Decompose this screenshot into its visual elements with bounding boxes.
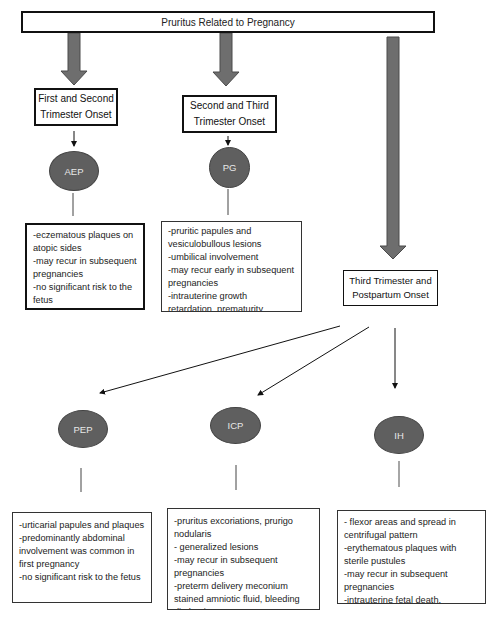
feature-item: -may recur early in subsequent pregnanci… <box>168 264 295 290</box>
feature-item: -pruritus excoriations, prurigo nodulari… <box>174 515 313 541</box>
feature-item: -intrauterine growth retardation, premat… <box>168 290 295 312</box>
feature-item: -eczematous plaques on atopic sides <box>33 229 137 255</box>
onset-label-line1: First and Second <box>38 91 114 107</box>
notes-box-pg: -pruritic papules and vesiculobullous le… <box>161 221 302 312</box>
condition-node-pg: PG <box>209 147 250 188</box>
onset-label-line2: Postpartum Onset <box>352 288 429 302</box>
block-arrow-first-second <box>61 33 87 85</box>
diagram-title: Pruritus Related to Pregnancy <box>161 17 294 28</box>
onset-box-first-second: First and Second Trimester Onset <box>34 88 118 126</box>
notes-box-icp: -pruritus excoriations, prurigo nodulari… <box>167 508 320 610</box>
condition-node-pep: PEP <box>58 410 108 448</box>
condition-abbr: PG <box>223 162 237 173</box>
feature-item: -urticarial papules and plaques <box>19 519 145 532</box>
feature-item: - generalized lesions <box>174 541 313 554</box>
feature-item: -no significant risk to the fetus <box>19 571 145 584</box>
notes-box-aep: -eczematous plaques on atopic sides -may… <box>25 223 145 310</box>
notes-box-pep: -urticarial papules and plaques -predomi… <box>12 512 152 603</box>
condition-node-icp: ICP <box>210 407 261 444</box>
block-arrow-second-third <box>213 33 239 86</box>
feature-item: -may recur in subsequent pregnancies <box>344 568 479 594</box>
condition-abbr: AEP <box>64 166 83 177</box>
onset-label-line2: Trimester Onset <box>40 107 111 123</box>
block-arrow-third-postpartum <box>380 37 406 259</box>
arrow-to-icp <box>258 327 369 395</box>
feature-item: -intrauterine fetal death, placental isc… <box>344 594 479 604</box>
onset-label-line2: Trimester Onset <box>194 114 265 130</box>
condition-abbr: PEP <box>73 424 92 435</box>
feature-item: -may recur in subsequent pregnancies <box>174 554 313 580</box>
condition-node-ih: IH <box>374 416 424 454</box>
feature-item: -pruritic papules and vesiculobullous le… <box>168 225 295 251</box>
feature-item: - flexor areas and spread in centrifugal… <box>344 516 479 542</box>
condition-node-aep: AEP <box>49 151 99 191</box>
feature-item: -preterm delivery meconium stained amnio… <box>174 580 313 610</box>
notes-box-ih: - flexor areas and spread in centrifugal… <box>337 510 486 604</box>
feature-item: -may recur in subsequent pregnancies <box>33 255 137 281</box>
feature-item: -umbilical involvement <box>168 251 295 264</box>
onset-box-third-postpartum: Third Trimester and Postpartum Onset <box>343 270 438 306</box>
arrow-to-pep <box>100 326 340 393</box>
onset-label-line1: Second and Third <box>190 98 269 114</box>
feature-item: -erythematous plaques with sterile pustu… <box>344 542 479 568</box>
feature-item: -no significant risk to the fetus <box>33 281 137 307</box>
condition-abbr: IH <box>394 430 404 441</box>
onset-box-second-third: Second and Third Trimester Onset <box>182 95 277 133</box>
diagram-title-box: Pruritus Related to Pregnancy <box>21 11 435 33</box>
feature-item: -predominantly abdominal involvement was… <box>19 532 145 571</box>
condition-abbr: ICP <box>228 420 244 431</box>
onset-label-line1: Third Trimester and <box>349 274 431 288</box>
